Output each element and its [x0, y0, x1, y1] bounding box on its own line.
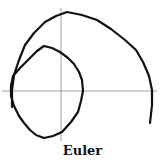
figure-caption: Euler — [0, 143, 165, 159]
trajectory-inner-loop — [11, 46, 83, 138]
trajectory-outer-arc — [12, 12, 152, 123]
euler-phase-plot — [0, 0, 165, 161]
